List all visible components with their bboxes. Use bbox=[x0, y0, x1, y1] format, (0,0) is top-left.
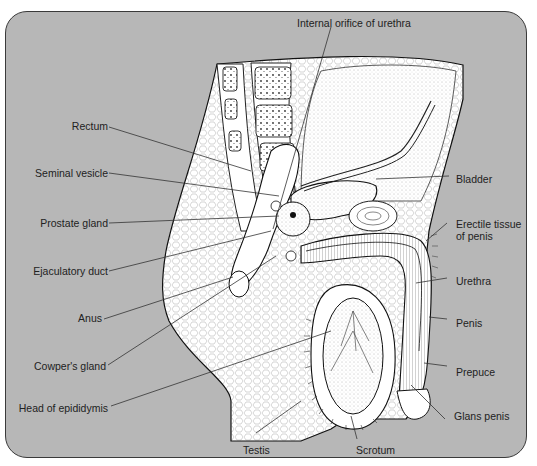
label-erectile-tissue-line2: of penis bbox=[456, 230, 493, 242]
label-testis: Testis bbox=[243, 444, 270, 456]
label-bladder: Bladder bbox=[456, 173, 492, 185]
label-prostate-gland: Prostate gland bbox=[6, 217, 108, 229]
label-glans-penis: Glans penis bbox=[454, 410, 509, 422]
label-scrotum: Scrotum bbox=[356, 444, 395, 456]
anatomy-illustration bbox=[6, 12, 527, 458]
label-penis: Penis bbox=[456, 317, 482, 329]
testis-shape bbox=[323, 298, 383, 414]
label-urethra: Urethra bbox=[456, 275, 491, 287]
label-head-of-epididymis: Head of epididymis bbox=[6, 402, 108, 414]
label-erectile-tissue-line1: Erectile tissue bbox=[456, 218, 521, 230]
label-seminal-vesicle: Seminal vesicle bbox=[6, 167, 108, 179]
label-prepuce: Prepuce bbox=[456, 366, 495, 378]
diagram-panel: Internal orifice of urethra Rectum Semin… bbox=[5, 11, 527, 458]
label-anus: Anus bbox=[6, 312, 102, 324]
label-internal-orifice: Internal orifice of urethra bbox=[297, 17, 411, 29]
label-rectum: Rectum bbox=[26, 120, 108, 132]
label-ejaculatory-duct: Ejaculatory duct bbox=[6, 265, 108, 277]
label-cowpers-gland: Cowper's gland bbox=[6, 360, 106, 372]
